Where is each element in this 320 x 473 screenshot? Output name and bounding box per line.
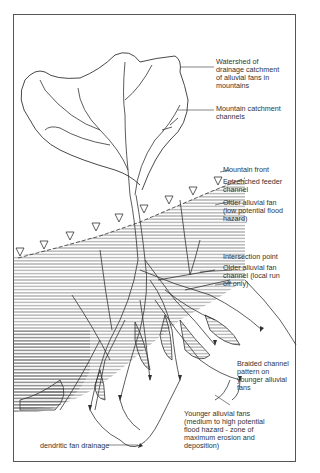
label-braided-channel: Braided channel pattern on younger alluv… <box>237 360 289 392</box>
label-dendritic: dendritic fan drainage <box>40 442 109 450</box>
label-older-fan: Older alluvial fan (low potential flood … <box>223 199 283 223</box>
label-entrenched-channel: Entrenched feeder channel <box>223 178 282 194</box>
label-watershed: Watershed of drainage catchment of alluv… <box>216 58 279 90</box>
label-older-fan-channel: Older alluvial fan channel (local run of… <box>223 264 280 288</box>
catchment-outline <box>21 53 188 190</box>
label-mountain-front: Mountain front <box>223 166 269 174</box>
catchment-channels <box>40 62 180 195</box>
label-younger-fan: Younger alluvial fans (medium to high po… <box>184 410 265 450</box>
label-intersection-point: Intersection point <box>223 253 278 261</box>
fan-right-edge <box>245 280 296 345</box>
label-mountain-channels: Mountain catchment channels <box>216 105 281 121</box>
